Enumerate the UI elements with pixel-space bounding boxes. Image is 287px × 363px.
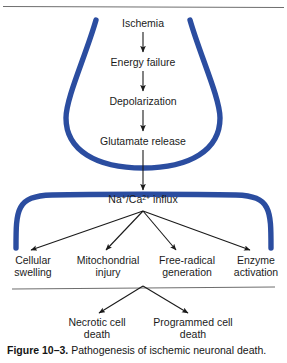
figure-caption: Figure 10–3. Pathogenesis of ischemic ne… — [7, 344, 282, 357]
influx-sup-plus: + — [122, 194, 126, 201]
node-na-ca-influx: Na+/Ca2+ influx — [88, 194, 198, 206]
node-depolarization: Depolarization — [93, 96, 193, 108]
arrow-influx-to-cellular-swelling — [31, 211, 143, 250]
figure-caption-id: Figure 10–3. — [7, 344, 68, 356]
node-programmed-cell-death: Programmed cell death — [150, 317, 236, 340]
node-energy-failure: Energy failure — [93, 57, 193, 69]
mid-divider-rule — [12, 287, 275, 289]
arrow-influx-to-mitochondrial-injury — [106, 211, 143, 250]
node-mitochondrial-injury: Mitochondrial injury — [66, 255, 150, 278]
node-ischemia: Ischemia — [103, 18, 183, 30]
arrow-to-necrotic-cell-death — [99, 286, 143, 313]
node-free-radical-generation: Free-radical generation — [147, 255, 227, 278]
node-enzyme-activation: Enzyme activation — [225, 255, 287, 278]
node-glutamate-release: Glutamate release — [83, 136, 203, 148]
influx-word: influx — [150, 193, 177, 205]
node-cellular-swelling: Cellular swelling — [2, 255, 64, 278]
figure-container: Ischemia Energy failure Depolarization G… — [0, 0, 287, 363]
influx-slash-ca: /Ca — [126, 193, 142, 205]
arrow-to-programmed-cell-death — [143, 286, 188, 313]
top-divider-rule — [3, 7, 284, 8]
figure-caption-text: Pathogenesis of ischemic neuronal death. — [68, 344, 266, 356]
node-necrotic-cell-death: Necrotic cell death — [57, 317, 137, 340]
influx-sup-2plus: 2+ — [142, 194, 150, 201]
influx-na: Na — [108, 193, 121, 205]
diagram-canvas — [0, 0, 287, 363]
